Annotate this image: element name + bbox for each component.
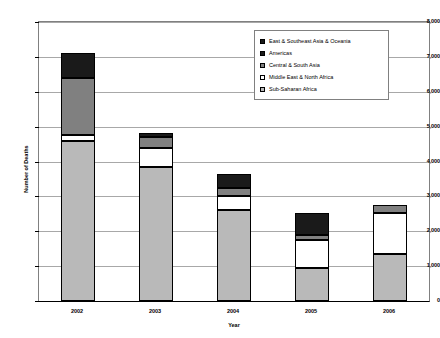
y-axis-tick-label: 8,000 xyxy=(408,18,440,24)
y-axis-tick-mark xyxy=(35,266,39,267)
bar-segment xyxy=(61,135,95,141)
bar-segment xyxy=(295,268,329,301)
legend-item-label: Sub-Saharan Africa xyxy=(269,86,317,92)
bar-segment xyxy=(139,167,173,301)
bar-segment xyxy=(373,213,407,254)
x-axis-tick-label: 2002 xyxy=(38,308,116,314)
bar-segment xyxy=(61,78,95,136)
bar-segment xyxy=(217,188,251,197)
legend-item: Sub-Saharan Africa xyxy=(260,83,383,95)
legend-swatch-icon xyxy=(260,75,265,80)
y-axis-tick-mark xyxy=(35,127,39,128)
y-axis-tick-label: 4,000 xyxy=(408,158,440,164)
legend-item-label: Central & South Asia xyxy=(269,62,320,68)
legend-swatch-icon xyxy=(260,63,265,68)
y-axis-tick-label: 2,000 xyxy=(408,227,440,233)
legend-item: Middle East & North Africa xyxy=(260,71,383,83)
legend-item-label: Middle East & North Africa xyxy=(269,74,333,80)
y-axis-tick-label: 3,000 xyxy=(408,192,440,198)
legend-swatch-icon xyxy=(260,39,265,44)
y-axis-tick-mark xyxy=(35,162,39,163)
bar-segment xyxy=(373,254,407,301)
y-axis-tick-mark xyxy=(35,22,39,23)
stacked-bar-chart: Number of Deaths East & Southeast Asia &… xyxy=(0,0,440,338)
legend-item-label: Americas xyxy=(269,50,292,56)
chart-legend: East & Southeast Asia & OceaniaAmericasC… xyxy=(254,30,389,100)
y-axis-title: Number of Deaths xyxy=(23,145,29,192)
legend-swatch-icon xyxy=(260,87,265,92)
bar-segment xyxy=(61,141,95,301)
y-axis-tick-label: 1,000 xyxy=(408,262,440,268)
y-axis-tick-label: 0 xyxy=(408,297,440,303)
bar-segment xyxy=(373,205,407,213)
x-axis-tick-label: 2006 xyxy=(350,308,428,314)
bar-segment xyxy=(295,240,329,268)
bar-segment xyxy=(217,210,251,301)
x-axis-tick-label: 2004 xyxy=(194,308,272,314)
x-axis-tick-label: 2003 xyxy=(116,308,194,314)
bar-segment xyxy=(139,148,173,168)
legend-swatch-icon xyxy=(260,51,265,56)
y-axis-tick-label: 5,000 xyxy=(408,123,440,129)
y-axis-tick-mark xyxy=(35,92,39,93)
bar-segment xyxy=(217,196,251,210)
y-axis-tick-mark xyxy=(35,231,39,232)
y-axis-tick-mark xyxy=(35,57,39,58)
legend-item: Central & South Asia xyxy=(260,59,383,71)
bar-group xyxy=(217,22,251,301)
legend-item: Americas xyxy=(260,47,383,59)
bar-segment xyxy=(217,174,251,188)
plot-area: East & Southeast Asia & OceaniaAmericasC… xyxy=(38,21,430,302)
legend-item-label: East & Southeast Asia & Oceania xyxy=(269,38,351,44)
y-axis-tick-label: 6,000 xyxy=(408,88,440,94)
x-axis-tick-label: 2005 xyxy=(272,308,350,314)
bar-segment xyxy=(295,235,329,240)
y-axis-tick-mark xyxy=(35,196,39,197)
y-axis-tick-mark xyxy=(35,301,39,302)
bar-segment xyxy=(139,133,173,137)
bar-group xyxy=(139,22,173,301)
x-axis-title: Year xyxy=(38,322,430,328)
bar-group xyxy=(61,22,95,301)
y-axis-tick-label: 7,000 xyxy=(408,53,440,59)
bar-segment xyxy=(61,53,95,77)
legend-item: East & Southeast Asia & Oceania xyxy=(260,35,383,47)
bar-segment xyxy=(139,137,173,147)
bar-segment xyxy=(295,213,329,235)
